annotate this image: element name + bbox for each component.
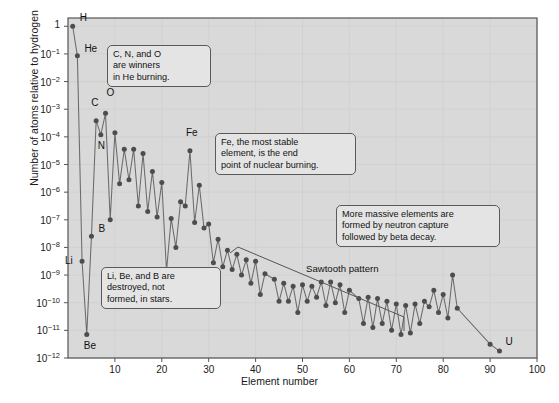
point-label-b: B xyxy=(98,223,105,234)
data-point xyxy=(323,303,328,308)
y-tick-label: 10−8 xyxy=(8,240,60,253)
x-tick-label: 30 xyxy=(194,364,224,375)
y-tick-label: 10−2 xyxy=(8,75,60,88)
data-point xyxy=(417,321,422,326)
data-point xyxy=(305,299,310,304)
y-tick-label: 10−3 xyxy=(8,102,60,115)
data-point xyxy=(108,217,113,222)
annotation-neutron-capture: More massive elements are formed by neut… xyxy=(336,205,500,247)
data-point xyxy=(333,300,338,305)
data-point xyxy=(230,267,235,272)
data-point xyxy=(286,299,291,304)
data-point xyxy=(84,332,89,337)
data-point xyxy=(103,111,108,116)
x-tick-label: 50 xyxy=(288,364,318,375)
data-point xyxy=(328,279,333,284)
data-point xyxy=(441,292,446,297)
data-point xyxy=(258,292,263,297)
data-point xyxy=(248,281,253,286)
y-tick-label: 10−4 xyxy=(8,130,60,143)
data-point xyxy=(150,169,155,174)
data-point xyxy=(169,216,174,221)
data-point xyxy=(94,118,99,123)
annotation-light-element-destruction: Li, Be, and B are destroyed, not formed,… xyxy=(101,267,221,309)
point-label-h: H xyxy=(80,12,87,23)
x-tick-label: 60 xyxy=(334,364,364,375)
data-point xyxy=(488,342,493,347)
data-point xyxy=(136,203,141,208)
point-label-u: U xyxy=(505,336,512,347)
data-point xyxy=(295,310,300,315)
annotation-sawtooth: Sawtooth pattern xyxy=(306,263,379,274)
abundance-chart-figure: Number of atoms relative to hydrogen Ele… xyxy=(0,0,559,403)
y-tick-label: 10−6 xyxy=(8,185,60,198)
x-tick-label: 10 xyxy=(100,364,130,375)
y-tick-label: 10−10 xyxy=(8,296,60,309)
data-point xyxy=(192,220,197,225)
y-tick-label: 10−7 xyxy=(8,213,60,226)
data-point xyxy=(445,315,450,320)
data-point xyxy=(389,328,394,333)
data-point xyxy=(380,321,385,326)
x-axis-title: Element number xyxy=(0,375,559,387)
data-point xyxy=(70,24,75,29)
data-point xyxy=(450,273,455,278)
data-point xyxy=(216,237,221,242)
data-point xyxy=(281,281,286,286)
data-point xyxy=(431,288,436,293)
data-point xyxy=(300,282,305,287)
y-tick-label: 10−1 xyxy=(8,47,60,60)
data-point xyxy=(347,288,352,293)
data-point xyxy=(197,183,202,188)
data-point xyxy=(155,215,160,220)
data-point xyxy=(375,296,380,301)
data-point xyxy=(98,132,103,137)
data-point xyxy=(366,295,371,300)
data-point xyxy=(183,203,188,208)
data-point xyxy=(403,303,408,308)
data-point xyxy=(80,259,85,264)
data-point xyxy=(342,310,347,315)
x-tick-label: 40 xyxy=(241,364,271,375)
data-point xyxy=(455,306,460,311)
x-tick-label: 70 xyxy=(381,364,411,375)
data-point xyxy=(338,282,343,287)
data-point xyxy=(141,151,146,156)
point-label-fe: Fe xyxy=(186,127,198,138)
data-point xyxy=(187,148,192,153)
data-point xyxy=(272,277,277,282)
data-point xyxy=(112,130,117,135)
annotation-he-burning: C, N, and O are winners in He burning. xyxy=(107,45,211,87)
data-point xyxy=(277,299,282,304)
point-label-li: Li xyxy=(65,255,73,266)
point-label-be: Be xyxy=(84,340,96,351)
x-tick-label: 80 xyxy=(428,364,458,375)
data-point xyxy=(117,181,122,186)
data-point xyxy=(178,199,183,204)
y-tick-label: 10−11 xyxy=(8,323,60,336)
data-point xyxy=(211,260,216,265)
annotation-iron-peak: Fe, the most stable element, is the end … xyxy=(215,133,356,175)
y-tick-label: 1 xyxy=(8,19,60,30)
data-point xyxy=(173,245,178,250)
point-label-o: O xyxy=(107,87,115,98)
data-point xyxy=(291,284,296,289)
data-point xyxy=(427,304,432,309)
data-point xyxy=(309,284,314,289)
point-label-c: C xyxy=(91,97,98,108)
data-point xyxy=(220,264,225,269)
data-point xyxy=(225,248,230,253)
y-tick-label: 10−12 xyxy=(8,351,60,364)
data-point xyxy=(206,221,211,226)
data-point xyxy=(422,299,427,304)
x-tick-label: 90 xyxy=(475,364,505,375)
data-point xyxy=(244,257,249,262)
data-point xyxy=(408,331,413,336)
x-tick-label: 20 xyxy=(147,364,177,375)
data-point xyxy=(262,271,267,276)
point-label-he: He xyxy=(84,43,97,54)
data-point xyxy=(497,349,502,354)
data-point xyxy=(253,259,258,264)
point-label-n: N xyxy=(98,140,105,151)
data-point xyxy=(89,234,94,239)
